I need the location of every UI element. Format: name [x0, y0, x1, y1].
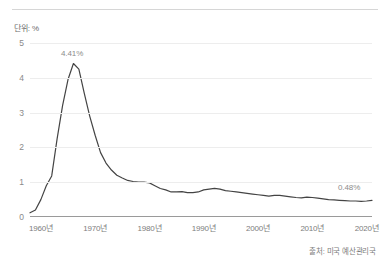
y-tick-label: 0: [0, 213, 24, 222]
gridline-y: [30, 182, 372, 183]
source-caption: 출처: 미국 예산관리국: [309, 245, 376, 256]
gridline-y: [30, 43, 372, 44]
line-series: [30, 43, 372, 217]
unit-label: 단위: %: [14, 22, 39, 33]
gridline-y: [30, 147, 372, 148]
y-tick-label: 4: [0, 74, 24, 83]
x-tick-label: 2020년: [332, 222, 390, 233]
y-tick-label: 5: [0, 39, 24, 48]
chart-figure: 단위: % 4.41% 0.48% 출처: 미국 예산관리국 012345196…: [0, 0, 390, 270]
last-value-annotation: 0.48%: [338, 183, 360, 192]
peak-annotation: 4.41%: [61, 49, 83, 58]
plot-area: [30, 43, 372, 217]
top-divider: [12, 9, 378, 10]
y-tick-label: 2: [0, 143, 24, 152]
y-tick-label: 1: [0, 178, 24, 187]
gridline-y: [30, 78, 372, 79]
y-tick-label: 3: [0, 109, 24, 118]
series-polyline: [30, 64, 372, 213]
gridline-y: [30, 113, 372, 114]
